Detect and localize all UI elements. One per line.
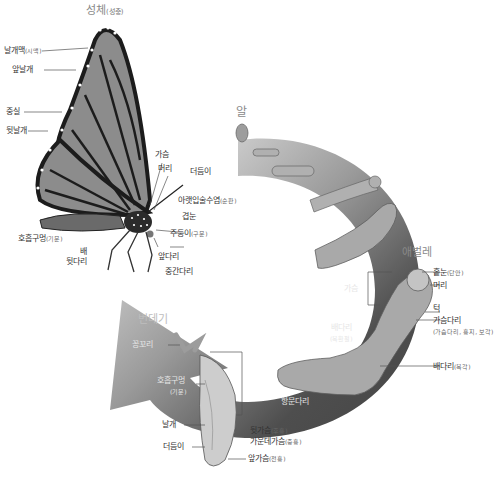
label-text: 더듬이	[163, 442, 184, 451]
label-spiracle-adult: 호흡구멍(기문)	[18, 234, 63, 244]
stage-title-larva: 애벌레	[402, 243, 432, 259]
label-prothorax: 앞가슴(전흉)	[248, 454, 286, 464]
label-antenna: 더듬이	[190, 167, 211, 177]
label-abdomen: 배	[80, 247, 87, 257]
label-text: 아랫입술수염	[178, 196, 220, 205]
label-text: 중실	[6, 107, 20, 116]
label-text: 홑눈	[433, 268, 447, 277]
label-text: 배	[80, 247, 87, 256]
label-sub: (복각)	[454, 363, 471, 370]
label-prolegs-segment: 배다리	[331, 323, 352, 333]
label-text: 항문다리	[281, 397, 309, 406]
label-text: 앞날개	[12, 65, 33, 74]
label-text: 배다리	[433, 362, 454, 371]
label-spiracle-pupa: 호흡구멍	[157, 376, 185, 386]
label-prolegs-segment-sub: (복환절)	[330, 334, 353, 344]
label-foreleg: 앞다리	[158, 252, 179, 262]
label-wing-vein: 날개맥(시맥)	[4, 46, 42, 56]
stage-title-adult-sub: (성충)	[106, 8, 123, 16]
label-text: 호흡구멍	[18, 234, 46, 243]
label-proboscis: 주둥이(구문)	[170, 229, 208, 239]
label-prolegs: 배다리(복각)	[433, 362, 471, 372]
stage-title-pupa-text: 번데기	[138, 313, 168, 326]
stage-title-pupa: 번데기	[138, 310, 168, 326]
stage-title-adult-text: 성체	[86, 4, 106, 17]
life-cycle-diagram: 성체(성충) 알 애벌레 번데기 날개맥(시맥) 앞날개 중실 뒷날개 가슴 머…	[0, 0, 503, 484]
label-head: 머리	[158, 164, 172, 174]
label-discal-cell: 중실	[6, 107, 20, 117]
label-text: 앞다리	[158, 252, 179, 261]
label-mandible: 턱	[433, 304, 440, 314]
label-text: (가슴다리, 흉지, 보각)	[433, 328, 493, 335]
label-sub: (단안)	[447, 269, 464, 276]
label-text: 겹눈	[182, 212, 196, 221]
label-metathorax: 뒷가슴(후흉)	[250, 426, 288, 436]
label-cremaster: 꽁꼬리	[132, 340, 153, 350]
diagram-artwork	[0, 0, 503, 484]
label-text: 뒷다리	[66, 257, 87, 266]
stage-title-larva-text: 애벌레	[402, 246, 432, 259]
label-text: 턱	[433, 304, 440, 313]
egg	[236, 124, 248, 142]
label-sub: (구문)	[191, 230, 208, 237]
label-text: 앞가슴	[248, 454, 269, 463]
label-ocelli: 홑눈(단안)	[433, 268, 464, 278]
label-compound-eye: 겹눈	[182, 212, 196, 222]
label-sub: (기문)	[46, 235, 63, 242]
label-labial-palp: 아랫입술수염(순판)	[178, 196, 237, 206]
label-text: 가슴다리	[433, 316, 461, 325]
label-larva-head: 머리	[433, 281, 447, 291]
label-forewing: 앞날개	[12, 65, 33, 75]
label-sub: (전흉)	[269, 455, 286, 462]
label-sub: (순판)	[220, 197, 237, 204]
label-thoracic-legs: 가슴다리	[433, 316, 461, 326]
label-sub: (중흉)	[285, 438, 302, 445]
label-text: 주둥이	[170, 229, 191, 238]
label-text: 더듬이	[190, 167, 211, 176]
label-thoracic-legs-sub: (가슴다리, 흉지, 보각)	[433, 327, 493, 337]
label-mesothorax: 가운데가슴(중흉)	[250, 437, 302, 447]
label-text: (복환절)	[330, 335, 353, 342]
label-text: 배다리	[331, 323, 352, 332]
label-text: 가슴	[344, 284, 358, 293]
label-anal-prolegs: 항문다리	[281, 397, 309, 407]
stage-title-egg-text: 알	[236, 105, 247, 119]
label-text: 가운데가슴	[250, 437, 285, 446]
label-hind-leg: 뒷다리	[66, 257, 87, 267]
label-text: 뒷가슴	[250, 426, 271, 435]
label-text: (기문)	[170, 388, 187, 395]
label-larva-thorax: 가슴	[344, 284, 358, 294]
label-hindwing: 뒷날개	[6, 126, 27, 136]
label-text: 꽁꼬리	[132, 340, 153, 349]
label-pupa-antenna: 더듬이	[163, 442, 184, 452]
label-pupa-wing: 날개	[162, 420, 176, 430]
label-text: 가슴	[155, 150, 169, 159]
label-thorax: 가슴	[155, 150, 169, 160]
label-text: 날개맥	[4, 46, 25, 55]
label-text: 머리	[433, 281, 447, 290]
label-sub: (시맥)	[25, 47, 42, 54]
stage-title-egg: 알	[236, 102, 247, 119]
label-text: 호흡구멍	[157, 376, 185, 385]
label-text: 중간다리	[165, 267, 193, 276]
label-text: 뒷날개	[6, 126, 27, 135]
label-text: 날개	[162, 420, 176, 429]
stage-title-adult: 성체(성충)	[86, 1, 123, 17]
label-spiracle-pupa-sub: (기문)	[170, 387, 187, 397]
label-sub: (후흉)	[271, 427, 288, 434]
label-midleg: 중간다리	[165, 267, 193, 277]
label-text: 머리	[158, 164, 172, 173]
